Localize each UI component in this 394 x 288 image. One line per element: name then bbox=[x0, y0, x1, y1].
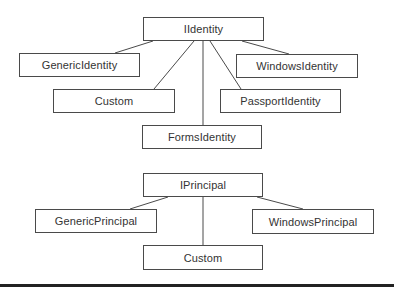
class-hierarchy-diagram: IIdentity GenericIdentity Custom FormsId… bbox=[0, 0, 394, 288]
edge-iprincipal-genericprincipal bbox=[130, 197, 168, 209]
node-custom-principal: Custom bbox=[143, 245, 263, 270]
edge-iprincipal-windowsprincipal bbox=[257, 197, 303, 209]
node-passport-identity: PassportIdentity bbox=[220, 89, 341, 113]
node-iidentity: IIdentity bbox=[143, 17, 264, 41]
node-windows-identity: WindowsIdentity bbox=[236, 54, 358, 78]
bottom-divider-rule bbox=[0, 284, 394, 287]
node-generic-identity: GenericIdentity bbox=[19, 53, 140, 77]
edge-iidentity-custom bbox=[154, 41, 194, 89]
edge-iidentity-windowsidentity bbox=[242, 41, 289, 54]
node-forms-identity: FormsIdentity bbox=[142, 125, 262, 149]
node-custom-identity: Custom bbox=[53, 89, 175, 113]
edge-iidentity-genericidentity bbox=[115, 41, 153, 53]
node-iprincipal: IPrincipal bbox=[143, 173, 263, 197]
node-generic-principal: GenericPrincipal bbox=[35, 209, 157, 233]
node-windows-principal: WindowsPrincipal bbox=[252, 209, 374, 234]
